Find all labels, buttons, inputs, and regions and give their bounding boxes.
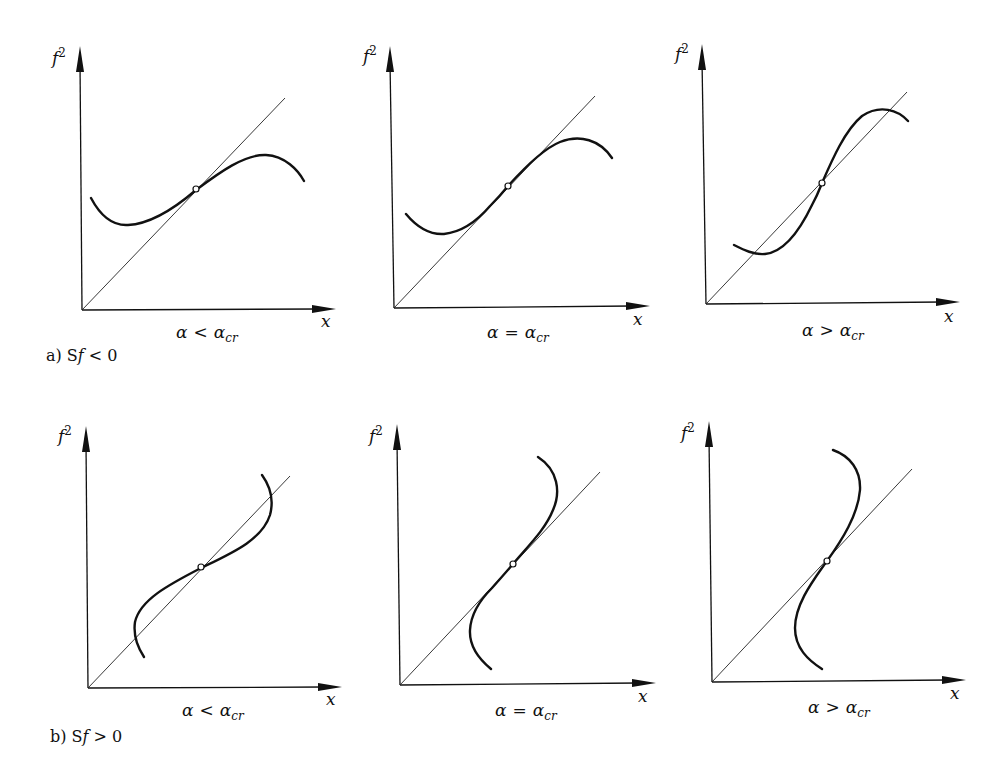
row-a-caption: a) Sf < 0	[46, 346, 118, 365]
panel-a3: f2 x α>αcr	[673, 42, 960, 343]
panel-a1: f2 x α<αcr	[50, 46, 336, 345]
reference-line	[712, 469, 912, 682]
y-axis-label: f2	[367, 424, 383, 446]
row-b-caption: b) Sf > 0	[50, 727, 122, 746]
x-axis-label: x	[944, 306, 954, 326]
x-axis-label: x	[633, 309, 643, 329]
condition-label: α>αcr	[802, 320, 865, 343]
x-axis-arrow-icon	[936, 298, 960, 306]
equilibrium-marker	[819, 180, 825, 186]
condition-label: α=αcr	[487, 322, 550, 345]
panel-b3: f2 x α>αcr	[679, 421, 966, 720]
y-axis-arrow-icon	[386, 46, 394, 72]
x-axis-label: x	[638, 686, 648, 706]
y-axis-label: f2	[679, 421, 695, 443]
y-axis-arrow-icon	[705, 421, 713, 447]
condition-label: α<αcr	[182, 700, 245, 723]
condition-label: α=αcr	[495, 700, 558, 723]
y-axis-arrow-icon	[76, 46, 84, 72]
y-axis-arrow-icon	[82, 426, 90, 452]
x-axis-label: x	[326, 689, 336, 709]
x-axis	[82, 309, 318, 310]
y-axis-label: f2	[361, 44, 377, 66]
x-axis-label: x	[950, 683, 960, 703]
equilibrium-marker	[193, 186, 199, 192]
equilibrium-marker	[824, 558, 830, 564]
x-axis-label: x	[321, 311, 331, 331]
x-axis	[400, 683, 638, 685]
reference-line	[82, 98, 285, 310]
bifurcation-diagram: f2 x α<αcr f2 x α=αcr f2 x α>αcr a) Sf <…	[0, 0, 1004, 766]
y-axis	[390, 62, 394, 308]
y-axis-label: f2	[56, 424, 72, 446]
x-axis	[394, 306, 632, 308]
x-axis	[706, 302, 942, 304]
equilibrium-marker	[505, 183, 511, 189]
y-axis-label: f2	[50, 46, 66, 68]
y-axis	[397, 440, 400, 685]
y-axis	[702, 60, 706, 304]
x-axis	[712, 680, 948, 682]
y-axis-arrow-icon	[698, 44, 706, 70]
condition-label: α<αcr	[176, 322, 239, 345]
panel-a2: f2 x α=αcr	[361, 44, 650, 345]
y-axis	[80, 62, 82, 310]
panel-b2: f2 x α=αcr	[367, 424, 656, 723]
reference-line	[706, 92, 907, 304]
equilibrium-marker	[198, 564, 204, 570]
panel-b1: f2 x α<αcr	[56, 424, 342, 723]
condition-label: α>αcr	[808, 697, 871, 720]
reference-line	[88, 476, 290, 688]
y-axis-arrow-icon	[393, 424, 401, 450]
y-axis-label: f2	[673, 42, 689, 64]
x-axis	[88, 687, 324, 688]
y-axis	[86, 442, 88, 688]
equilibrium-marker	[510, 561, 516, 567]
y-axis	[709, 437, 712, 682]
